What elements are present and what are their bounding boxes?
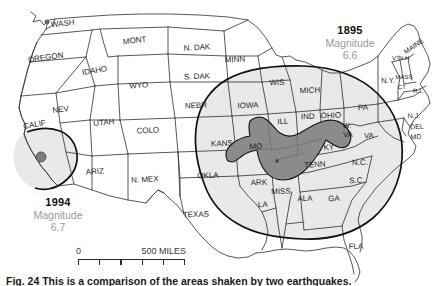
scale-bar: 0 500 MILES [78, 246, 184, 267]
state-label-sdak: S. DAK [184, 72, 211, 82]
state-label-fla: FLA [348, 242, 364, 252]
state-label-ala: ALA [297, 194, 313, 204]
state-label-ky: KY [323, 143, 335, 153]
scale-bar-rule [78, 259, 184, 267]
annotation-1994-year: 1994 [6, 196, 110, 209]
state-label-nev: NEV [52, 104, 70, 115]
scale-bar-line [78, 259, 184, 260]
annotation-1994: 1994 Magnitude 6.7 [6, 196, 110, 234]
state-label-sc: S.C. [349, 176, 365, 186]
state-label-md: MD [410, 133, 421, 140]
figure-caption: Fig. 24 This is a comparison of the area… [6, 275, 436, 286]
state-label-ct: CT [398, 84, 407, 90]
state-label-mich: MICH [300, 86, 321, 96]
state-label-ark: ARK [251, 178, 268, 188]
state-label-mont: MONT [122, 35, 147, 47]
state-label-ill: ILL [277, 117, 289, 126]
state-label-miss: MISS [271, 187, 291, 197]
scale-bar-tick [78, 259, 79, 265]
state-label-nj: N.J. [408, 112, 421, 119]
annotation-1895-magnitude-value: 6.6 [300, 49, 400, 61]
earthquake-comparison-figure: WASHOREGONIDAHOMONTWYON. DAKS. DAKNEBRMI… [0, 0, 441, 286]
state-label-maine: MAINE [402, 37, 425, 55]
state-label-la: LA [258, 200, 269, 209]
marker-washington-icon [45, 20, 49, 24]
state-label-ny: N.Y. [381, 76, 395, 85]
scale-bar-tick [184, 259, 185, 265]
scale-bar-tick [99, 259, 100, 265]
annotation-1895-magnitude-label: Magnitude [300, 37, 400, 49]
epicenter-1895-dot[interactable] [275, 159, 278, 162]
state-label-ndak: N. DAK [183, 42, 211, 52]
state-label-nebr: NEBR [185, 101, 208, 111]
state-label-ga: GA [328, 194, 341, 203]
epicenter-1994-dot[interactable] [36, 152, 46, 162]
state-label-tenn: TENN [304, 159, 327, 170]
state-label-wis: WIS [269, 78, 284, 88]
annotation-1895-year: 1895 [300, 24, 400, 37]
state-label-wyo: WYO [129, 80, 149, 91]
state-label-ind: IND [301, 112, 315, 121]
state-label-nh: N.H. [399, 55, 412, 61]
state-label-kans: KANS [211, 139, 233, 149]
state-label-va: VA [364, 131, 374, 140]
state-label-mo: MO [249, 142, 262, 151]
annotation-1994-magnitude-value: 6.7 [6, 221, 110, 233]
state-label-minn: MINN [224, 54, 245, 64]
annotation-1994-magnitude-label: Magnitude [6, 209, 110, 221]
marker-washington-stem [46, 24, 47, 30]
state-label-utah: UTAH [93, 117, 115, 128]
state-label-idaho: IDAHO [81, 64, 107, 77]
state-label-pa: PA [358, 103, 369, 112]
scale-bar-max-label: 500 MILES [141, 246, 186, 256]
state-label-wash: WASH [50, 18, 75, 29]
scale-bar-tick [163, 259, 164, 265]
state-label-nc: N.C. [352, 158, 368, 168]
state-label-w: W. [342, 121, 351, 130]
state-label-mass: MASS [395, 74, 412, 81]
state-label-okla: OKLA [197, 171, 219, 181]
state-label-va: VA [343, 130, 353, 139]
scale-bar-zero-label: 0 [76, 246, 81, 256]
state-label-colo: COLO [136, 125, 159, 135]
state-label-texas: TEXAS [183, 210, 210, 220]
state-label-ohio: OHIO [321, 111, 342, 121]
state-label-nmex: N. MEX [131, 174, 160, 184]
state-label-ariz: ARIZ [85, 166, 104, 177]
scale-bar-labels: 0 500 MILES [78, 246, 184, 258]
state-label-iowa: IOWA [237, 101, 259, 111]
state-label-ri: R.I. [413, 87, 424, 94]
state-label-del: DEL [410, 123, 424, 130]
scale-bar-tick [142, 259, 143, 265]
annotation-1895: 1895 Magnitude 6.6 [300, 24, 400, 62]
scale-bar-tick [120, 259, 121, 265]
